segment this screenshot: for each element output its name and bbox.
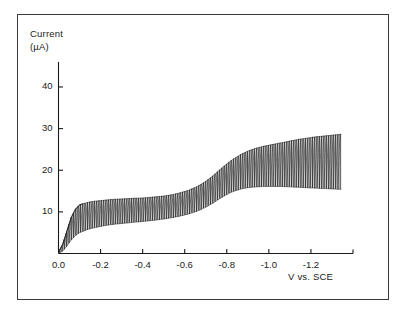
y-axis-tick-label: 40 (29, 80, 53, 91)
y-axis-title-line2: (µA) (30, 41, 49, 52)
y-axis-tick-label: 10 (29, 205, 53, 216)
x-axis-tick-label: -1.0 (254, 259, 284, 270)
x-axis-tick-label: -0.4 (128, 259, 158, 270)
x-axis-title: V vs. SCE (288, 271, 333, 282)
y-axis-title-line1: Current (30, 28, 63, 39)
polarogram-trace (59, 134, 342, 254)
x-axis-tick-label: -0.2 (86, 259, 116, 270)
y-axis-tick-label: 20 (29, 164, 53, 175)
y-axis-tick-label: 30 (29, 122, 53, 133)
x-axis-tick-label: -1.2 (296, 259, 326, 270)
x-axis-tick-label: -0.8 (212, 259, 242, 270)
x-axis-tick-label: -0.6 (170, 259, 200, 270)
x-axis-tick-label: 0.0 (44, 259, 74, 270)
